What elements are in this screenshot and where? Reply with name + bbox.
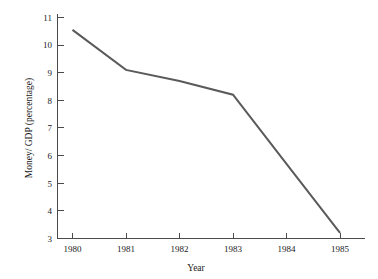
x-tick-label: 1981 [117,244,135,254]
data-series-line [73,30,341,233]
x-tick-label: 1982 [171,244,189,254]
y-tick-labels: 11 10 9 8 7 6 5 4 3 [43,13,53,244]
y-axis-title: Money/ GDP (percentage) [24,78,35,178]
y-tick-label: 5 [48,179,53,189]
y-tick-label: 8 [48,96,53,106]
y-tick-label: 3 [48,234,53,244]
x-tick-labels: 1980 1981 1982 1983 1984 1985 [64,244,350,254]
x-tick-label: 1984 [278,244,297,254]
y-tick-label: 7 [48,123,53,133]
x-tick-marks [73,233,341,239]
y-tick-label: 6 [48,151,53,161]
x-tick-label: 1983 [224,244,243,254]
y-tick-label: 4 [48,206,53,216]
y-tick-marks [58,17,64,238]
y-tick-label: 11 [43,13,52,23]
chart-plot-area: 11 10 9 8 7 6 5 4 3 1980 1981 1982 1983 … [0,0,378,279]
x-tick-label: 1985 [331,244,350,254]
x-axis-title: Year [187,263,205,273]
x-tick-label: 1980 [64,244,83,254]
chart-figure: 11 10 9 8 7 6 5 4 3 1980 1981 1982 1983 … [0,0,378,279]
y-tick-label: 9 [48,68,53,78]
y-tick-label: 10 [43,40,53,50]
